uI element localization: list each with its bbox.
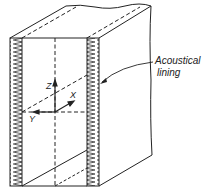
z-axis-label: Z (45, 81, 52, 91)
acoustical-lining-label-line2: lining (157, 67, 181, 78)
acoustical-lining-label-line1: Acoustical (154, 55, 201, 66)
leader-arrow-icon (100, 78, 107, 84)
leader-line (102, 62, 153, 82)
x-axis-label: X (69, 90, 77, 100)
right-acoustical-lining (87, 38, 99, 186)
duct-diagram: Z X Y Acoustical lining (0, 0, 209, 192)
duct-top-face (10, 4, 151, 38)
coordinate-axes (33, 80, 74, 114)
y-axis-label: Y (29, 114, 36, 124)
left-acoustical-lining (10, 38, 22, 186)
